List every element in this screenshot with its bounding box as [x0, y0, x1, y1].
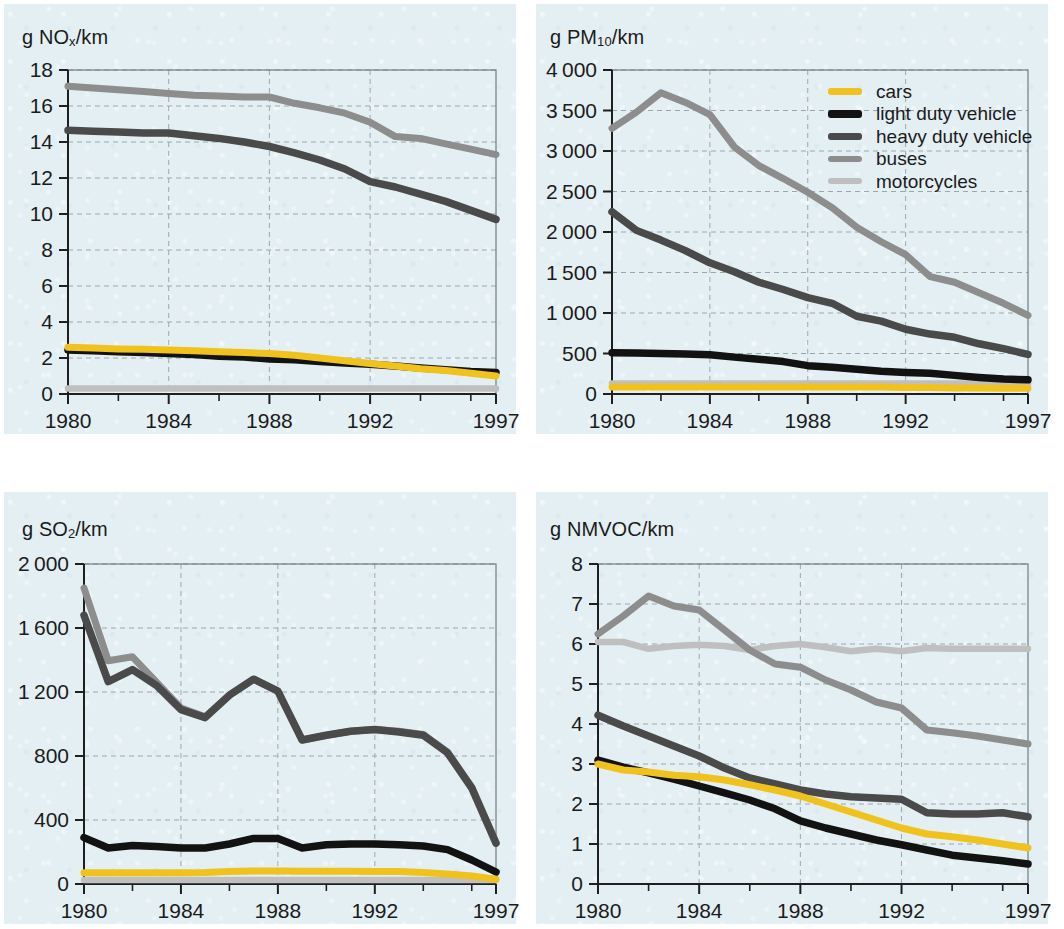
y-tick-label: 4 000: [546, 58, 597, 81]
x-tick-label: 1997: [473, 899, 520, 922]
y-tick-label: 2 500: [546, 180, 597, 203]
y-tick-label: 2 000: [546, 220, 597, 243]
y-tick-label: 14: [30, 130, 54, 153]
legend-item-cars[interactable]: cars: [828, 80, 1032, 103]
x-tick-label: 1984: [158, 899, 205, 922]
x-tick-label: 1992: [882, 409, 929, 432]
series-line-light-duty-vehicle: [84, 838, 496, 872]
y-tick-label: 1: [571, 832, 583, 855]
legend-item-motorcycles[interactable]: motorcycles: [828, 170, 1032, 193]
panel-nox: g NOx/km 0246810121416181980198419881992…: [4, 4, 516, 434]
y-tick-label: 8: [41, 238, 53, 261]
chart-legend: cars light duty vehicle heavy duty vehic…: [828, 80, 1032, 193]
legend-label-light-duty-vehicle: light duty vehicle: [876, 104, 1016, 123]
plot-nox: 02468101214161819801984198819921997: [4, 4, 516, 434]
panel-nmvoc-title: g NMVOC/km: [550, 518, 674, 541]
y-tick-label: 2: [571, 792, 583, 815]
x-tick-label: 1997: [1005, 409, 1052, 432]
panel-pm10: g PM10/km 05001 0001 5002 0002 5003 0003…: [536, 4, 1048, 434]
x-tick-label: 1984: [687, 409, 734, 432]
x-tick-label: 1988: [777, 899, 824, 922]
x-tick-label: 1980: [45, 409, 92, 432]
legend-swatch-buses: [828, 156, 862, 162]
legend-item-heavy-duty-vehicle[interactable]: heavy duty vehicle: [828, 125, 1032, 148]
y-tick-label: 0: [41, 382, 53, 405]
y-tick-label: 0: [585, 382, 597, 405]
x-tick-label: 1980: [589, 409, 636, 432]
legend-swatch-motorcycles: [828, 178, 862, 184]
y-tick-label: 7: [571, 592, 583, 615]
y-tick-label: 500: [562, 342, 597, 365]
y-tick-label: 5: [571, 672, 583, 695]
series-line-buses: [68, 86, 496, 154]
plot-nmvoc: 01234567819801984198819921997: [536, 492, 1048, 924]
y-tick-label: 2: [41, 346, 53, 369]
y-tick-label: 1 500: [546, 261, 597, 284]
y-tick-label: 12: [30, 166, 53, 189]
series-line-cars: [598, 764, 1028, 848]
y-tick-label: 3: [571, 752, 583, 775]
y-tick-label: 6: [41, 274, 53, 297]
y-tick-label: 3 500: [546, 99, 597, 122]
x-tick-label: 1992: [351, 899, 398, 922]
y-tick-label: 1 200: [18, 680, 69, 703]
y-tick-label: 8: [571, 552, 583, 575]
y-tick-label: 1 000: [546, 301, 597, 324]
series-line-heavy-duty-vehicle: [612, 212, 1028, 355]
series-line-light-duty-vehicle: [612, 353, 1028, 380]
panel-so2-title: g SO2/km: [22, 518, 108, 541]
x-tick-label: 1997: [473, 409, 520, 432]
y-tick-label: 4: [571, 712, 583, 735]
y-tick-label: 0: [571, 872, 583, 895]
y-tick-label: 800: [34, 744, 69, 767]
plot-so2: 04008001 2001 6002 000198019841988199219…: [4, 492, 516, 924]
legend-swatch-light-duty-vehicle: [828, 110, 862, 118]
series-line-cars: [612, 387, 1028, 388]
y-tick-label: 6: [571, 632, 583, 655]
x-tick-label: 1984: [145, 409, 192, 432]
y-tick-label: 3 000: [546, 139, 597, 162]
panel-so2: g SO2/km 04008001 2001 6002 000198019841…: [4, 492, 516, 924]
y-tick-label: 10: [30, 202, 53, 225]
legend-label-motorcycles: motorcycles: [876, 172, 977, 191]
series-line-heavy-duty-vehicle: [84, 615, 496, 843]
panel-nmvoc: g NMVOC/km 01234567819801984198819921997: [536, 492, 1048, 924]
y-tick-label: 16: [30, 94, 53, 117]
x-tick-label: 1984: [676, 899, 723, 922]
x-tick-label: 1997: [1005, 899, 1052, 922]
legend-label-cars: cars: [876, 82, 912, 101]
x-tick-label: 1988: [784, 409, 831, 432]
x-tick-label: 1992: [878, 899, 925, 922]
panel-pm10-title: g PM10/km: [550, 26, 644, 49]
legend-label-heavy-duty-vehicle: heavy duty vehicle: [876, 127, 1032, 146]
plot-pm10: 05001 0001 5002 0002 5003 0003 5004 0001…: [536, 4, 1048, 434]
legend-item-light-duty-vehicle[interactable]: light duty vehicle: [828, 103, 1032, 126]
y-tick-label: 1 600: [18, 616, 69, 639]
panel-nox-title: g NOx/km: [22, 26, 108, 49]
y-tick-label: 18: [30, 58, 53, 81]
legend-label-buses: buses: [876, 149, 927, 168]
y-tick-label: 2 000: [18, 552, 69, 575]
x-tick-label: 1992: [347, 409, 394, 432]
x-tick-label: 1988: [246, 409, 293, 432]
legend-swatch-cars: [828, 88, 862, 95]
series-line-buses: [598, 596, 1028, 744]
y-tick-label: 400: [34, 808, 69, 831]
emissions-figure: g NOx/km 0246810121416181980198419881992…: [0, 0, 1064, 929]
y-tick-label: 4: [41, 310, 53, 333]
legend-swatch-heavy-duty-vehicle: [828, 133, 862, 140]
x-tick-label: 1988: [255, 899, 302, 922]
legend-item-buses[interactable]: buses: [828, 148, 1032, 171]
x-tick-label: 1980: [575, 899, 622, 922]
series-line-motorcycles: [598, 642, 1028, 651]
y-tick-label: 0: [57, 872, 69, 895]
x-tick-label: 1980: [61, 899, 108, 922]
